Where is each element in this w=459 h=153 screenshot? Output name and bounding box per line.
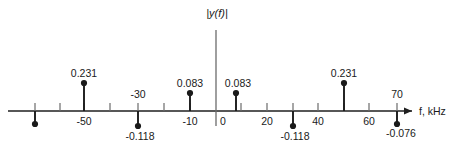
stem-p8 bbox=[233, 90, 239, 111]
value-label-n50: 0.231 bbox=[71, 68, 97, 79]
tick-label-n10: -10 bbox=[182, 116, 197, 127]
value-label-p70: -0.076 bbox=[386, 128, 416, 139]
tick-label-0: 0 bbox=[220, 116, 226, 127]
value-label-p30: -0.118 bbox=[281, 131, 310, 142]
tick-label-70: 70 bbox=[391, 89, 403, 100]
stem-p70 bbox=[394, 111, 400, 127]
x-axis bbox=[8, 108, 412, 115]
stem-n10 bbox=[187, 90, 193, 111]
x-axis-label: f, kHz bbox=[419, 106, 446, 117]
value-label-p50: 0.231 bbox=[331, 68, 357, 79]
stem-n50 bbox=[81, 80, 87, 111]
stem-n70 bbox=[32, 111, 38, 127]
tick-label-n50: -50 bbox=[76, 116, 91, 127]
stem-p50 bbox=[341, 80, 347, 111]
value-label-n30: -0.118 bbox=[126, 131, 155, 142]
stem-p30 bbox=[290, 111, 296, 129]
tick-label-40: 40 bbox=[312, 116, 324, 127]
spectrum-plot: |y(f)| f, kHz 0.231 -0.118 0.083 0.083 -… bbox=[0, 0, 459, 153]
tick-label-60: 60 bbox=[363, 116, 375, 127]
value-label-p8: 0.083 bbox=[225, 78, 251, 89]
tick-label-n30: -30 bbox=[130, 89, 145, 100]
value-label-n10: 0.083 bbox=[177, 78, 203, 89]
y-axis-label: |y(f)| bbox=[206, 8, 228, 19]
tick-label-20: 20 bbox=[261, 116, 273, 127]
stem-n30 bbox=[135, 111, 141, 129]
